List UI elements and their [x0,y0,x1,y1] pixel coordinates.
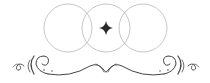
circle-left [44,4,92,52]
decorative-ornament [0,0,210,83]
four-point-star-icon [99,21,113,35]
circle-right [119,4,167,52]
scroll-flourish [13,56,199,75]
